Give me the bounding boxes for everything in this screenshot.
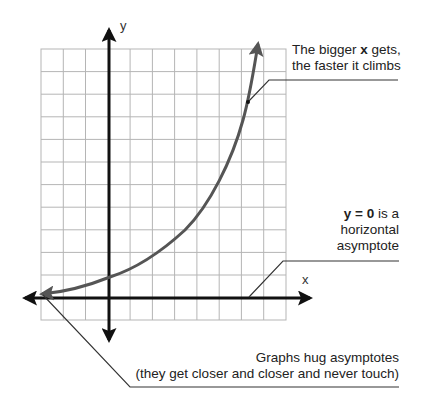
exponential-curve: [42, 44, 258, 294]
callout-top-text: gets,: [368, 42, 401, 57]
callout-bottom: Graphs hug asymptotes (they get closer a…: [100, 350, 399, 382]
callout-top-bold: x: [360, 42, 368, 57]
callout-middle: y = 0 is a horizontal asymptote: [260, 206, 399, 254]
callout-middle-text: is a: [374, 206, 399, 221]
curve-point-dot: [246, 100, 250, 104]
callout-middle-line3: asymptote: [260, 238, 399, 254]
x-axis-label: x: [302, 272, 309, 287]
callout-top-text: The bigger: [292, 42, 360, 57]
callout-bottom-line1: Graphs hug asymptotes: [100, 350, 399, 366]
callout-middle-bold: y = 0: [344, 206, 374, 221]
y-axis-label: y: [120, 18, 127, 33]
callout-bottom-line2: (they get closer and closer and never to…: [100, 366, 399, 382]
callout-middle-line2: horizontal: [260, 222, 399, 238]
callout-top: The bigger x gets, the faster it climbs: [292, 42, 402, 74]
callout-top-line2: the faster it climbs: [292, 58, 402, 74]
